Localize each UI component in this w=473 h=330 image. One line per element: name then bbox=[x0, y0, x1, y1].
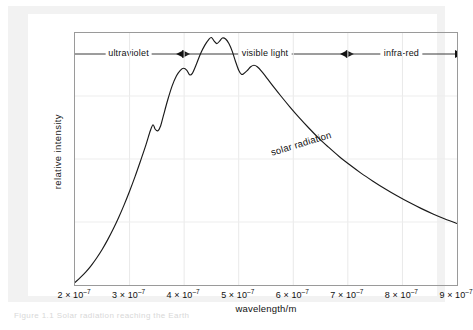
data-curve-solar-radiation bbox=[75, 37, 457, 282]
x-tick-label: 5 × 10–7 bbox=[221, 288, 254, 300]
chart-card: ultravioletvisible lightinfra-red solar … bbox=[28, 14, 437, 296]
figure-panel: ultravioletvisible lightinfra-red solar … bbox=[8, 6, 445, 302]
y-axis-label-wrap: relative intensity bbox=[52, 114, 66, 254]
x-tick-label: 3 × 10–7 bbox=[112, 288, 145, 300]
x-tick-label: 8 × 10–7 bbox=[385, 288, 418, 300]
plot-svg bbox=[75, 33, 457, 285]
x-axis-ticks: 2 × 10–73 × 10–74 × 10–75 × 10–76 × 10–7… bbox=[74, 288, 458, 304]
plot-area bbox=[74, 32, 458, 286]
y-axis-label: relative intensity bbox=[52, 114, 63, 189]
x-tick-label: 6 × 10–7 bbox=[276, 288, 309, 300]
x-tick-label: 4 × 10–7 bbox=[167, 288, 200, 300]
x-tick-label: 2 × 10–7 bbox=[57, 288, 90, 300]
gridlines bbox=[75, 33, 457, 285]
figure-caption: Figure 1.1 Solar radiation reaching the … bbox=[14, 311, 454, 320]
x-tick-label: 7 × 10–7 bbox=[330, 288, 363, 300]
x-tick-label: 9 × 10–7 bbox=[439, 288, 472, 300]
